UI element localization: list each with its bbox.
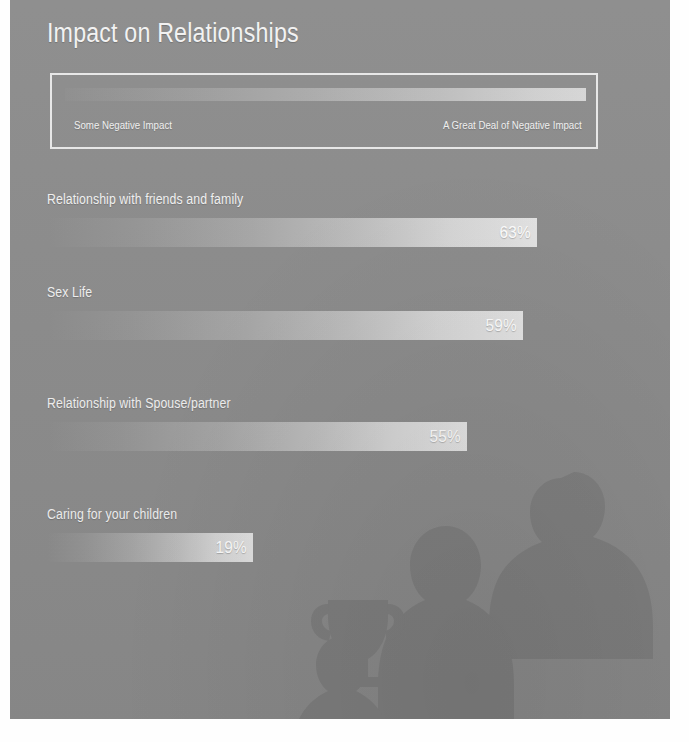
bar-label: Relationship with friends and family <box>47 190 243 208</box>
bar-fill <box>47 218 537 247</box>
bar-track: 19% <box>47 533 253 562</box>
bar-label: Caring for your children <box>47 505 177 523</box>
infographic-page: Impact on Relationships Some Negative Im… <box>0 0 689 742</box>
bar-track: 63% <box>47 218 537 247</box>
bar-value: 59% <box>486 311 517 340</box>
poster-panel: Impact on Relationships Some Negative Im… <box>10 0 670 719</box>
bar-track: 59% <box>47 311 523 340</box>
bar-fill <box>47 422 467 451</box>
bar-value: 63% <box>500 218 531 247</box>
bar-value: 55% <box>430 422 461 451</box>
bar-label: Relationship with Spouse/partner <box>47 394 231 412</box>
bar-fill <box>47 311 523 340</box>
bar-value: 19% <box>216 533 247 562</box>
bar-chart: Relationship with friends and family 63%… <box>10 0 670 719</box>
bar-label: Sex Life <box>47 283 92 301</box>
bar-track: 55% <box>47 422 467 451</box>
